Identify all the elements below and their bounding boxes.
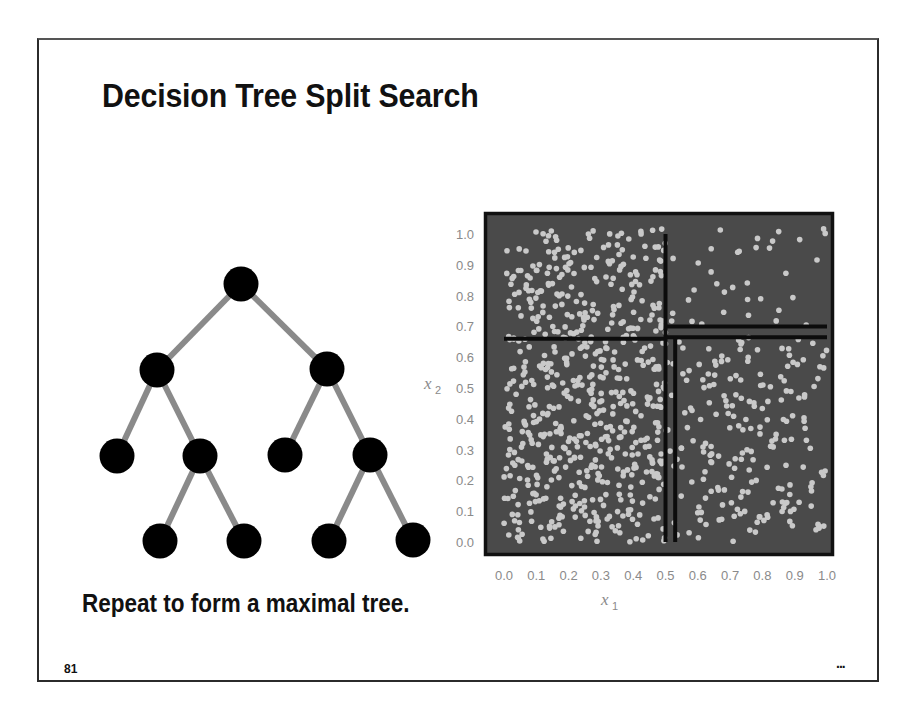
data-point [523, 379, 529, 385]
x2-label: x [423, 374, 432, 393]
data-point [561, 528, 567, 534]
data-point [610, 275, 616, 281]
data-point [537, 262, 543, 268]
data-point [754, 519, 760, 525]
data-point [765, 417, 771, 423]
data-point [633, 409, 639, 415]
data-point [582, 504, 588, 510]
data-point [576, 398, 582, 404]
data-point [709, 451, 715, 457]
data-point [785, 363, 791, 369]
data-point [628, 492, 634, 498]
x-tick-label: 0.7 [721, 568, 739, 583]
data-point [606, 259, 612, 265]
data-point [578, 248, 584, 254]
data-point [648, 343, 654, 349]
data-point [604, 516, 610, 522]
data-point [635, 357, 641, 363]
data-point [656, 389, 662, 395]
data-point [790, 523, 796, 529]
data-point [721, 309, 727, 315]
data-point [549, 228, 555, 234]
data-point [599, 398, 605, 404]
data-point [644, 436, 650, 442]
data-point [546, 233, 552, 239]
data-point [800, 464, 806, 470]
data-point [543, 238, 549, 244]
data-point [609, 390, 615, 396]
data-point [594, 515, 600, 521]
data-point [696, 535, 702, 541]
data-point [682, 410, 688, 416]
data-point [707, 400, 713, 406]
data-point [625, 467, 631, 473]
data-point [558, 496, 564, 502]
data-point [758, 296, 764, 302]
data-point [757, 514, 763, 520]
data-point [597, 448, 603, 454]
data-point [519, 384, 525, 390]
data-point [525, 482, 531, 488]
data-point [702, 469, 708, 475]
data-point [822, 468, 828, 474]
continuation-marker: ... [836, 655, 845, 671]
data-point [802, 392, 808, 398]
data-point [730, 403, 736, 409]
data-point [712, 359, 718, 365]
data-point [646, 533, 652, 539]
data-point [553, 303, 559, 309]
data-point [552, 255, 558, 261]
data-point [790, 295, 796, 301]
data-point [552, 329, 558, 335]
data-point [776, 229, 782, 235]
y-tick-label: 0.3 [456, 443, 474, 458]
data-point [591, 363, 597, 369]
data-point [540, 231, 546, 237]
data-point [787, 482, 793, 488]
data-point [653, 267, 659, 273]
x-tick-label: 0.2 [560, 568, 578, 583]
data-point [545, 385, 551, 391]
data-point [731, 514, 737, 520]
data-point [568, 330, 574, 336]
data-point [548, 536, 554, 542]
data-point [529, 305, 535, 311]
y-tick-label: 0.2 [456, 473, 474, 488]
data-point [537, 498, 543, 504]
data-point [518, 313, 524, 319]
data-point [618, 321, 624, 327]
data-point [782, 438, 788, 444]
data-point [558, 505, 564, 511]
data-point [553, 234, 559, 240]
data-point [630, 401, 636, 407]
data-point [629, 429, 635, 435]
data-point [781, 505, 787, 511]
data-point [647, 317, 653, 323]
data-point [670, 256, 676, 262]
data-point [590, 228, 596, 234]
data-point [796, 499, 802, 505]
data-point [601, 357, 607, 363]
data-point [650, 460, 656, 466]
data-point [727, 425, 733, 431]
data-point [647, 454, 653, 460]
data-point [796, 395, 802, 401]
data-point [618, 401, 624, 407]
data-point [594, 255, 600, 261]
data-point [554, 291, 560, 297]
x-tick-label: 0.6 [689, 568, 707, 583]
data-point [615, 466, 621, 472]
data-point [647, 494, 653, 500]
data-point [529, 288, 535, 294]
data-point [703, 441, 709, 447]
data-point [787, 492, 793, 498]
x-tick-label: 0.1 [527, 568, 545, 583]
data-point [593, 457, 599, 463]
data-point [525, 477, 531, 483]
x-tick-label: 0.9 [786, 568, 804, 583]
slide-caption: Repeat to form a maximal tree. [82, 589, 410, 618]
data-point [526, 344, 532, 350]
x-axis-ticks: 0.00.10.20.30.40.50.60.70.80.91.0 [495, 568, 836, 583]
data-point [507, 436, 513, 442]
data-point [646, 444, 652, 450]
